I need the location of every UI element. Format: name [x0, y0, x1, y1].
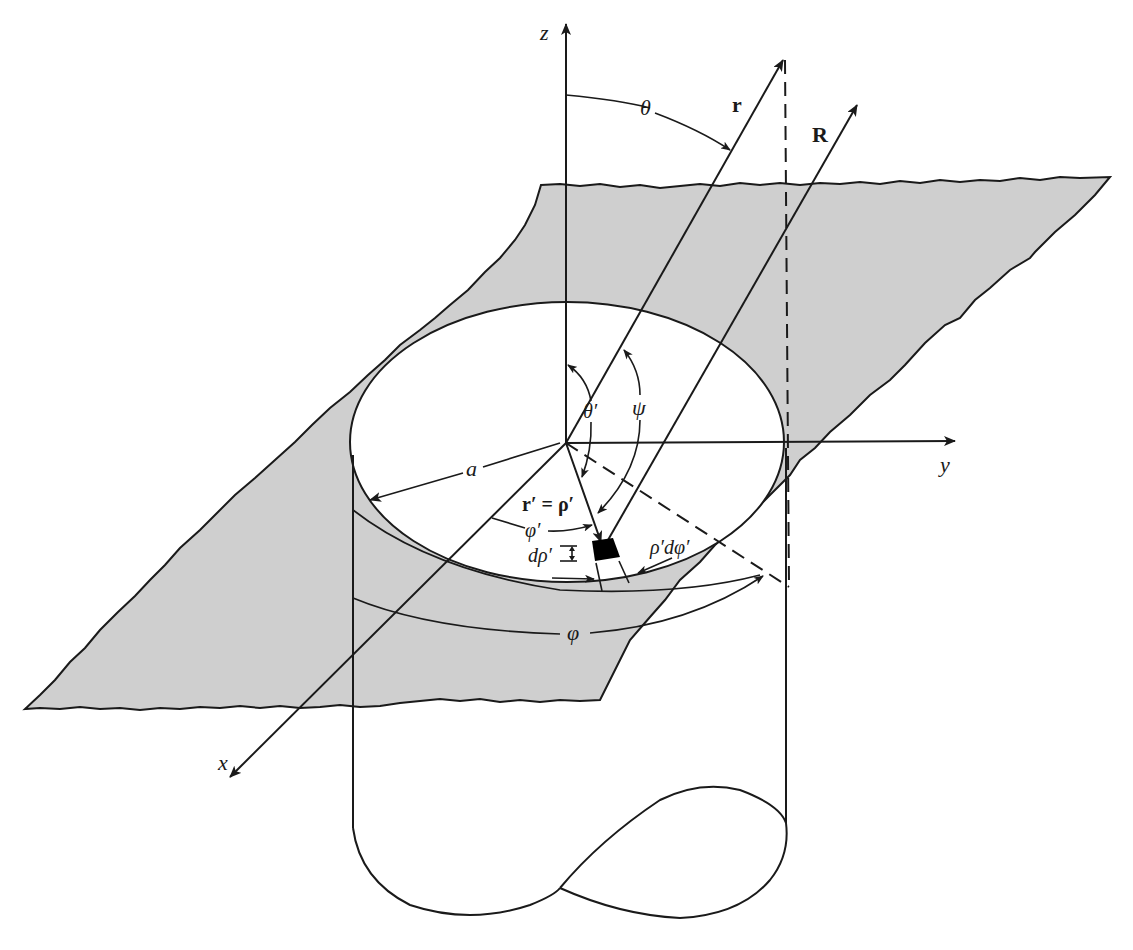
- x-axis-label: x: [217, 750, 228, 775]
- y-axis-label: y: [938, 452, 950, 477]
- z-axis-label: z: [539, 20, 549, 45]
- phi-prime-label: φ′: [525, 519, 541, 542]
- radius-label: a: [466, 456, 477, 481]
- psi-label: ψ: [632, 395, 646, 420]
- rho-d-phi-label: ρ′dφ′: [649, 536, 690, 559]
- theta-arc: [566, 95, 650, 108]
- theta-label: θ: [640, 95, 651, 120]
- d-rho-label: dρ′: [528, 544, 553, 567]
- R-vector-label: R: [812, 122, 829, 147]
- phi-label: φ: [567, 620, 579, 645]
- r-prime-label: r′ = ρ′: [522, 493, 574, 516]
- aperture-diagram: z y x r R r′ = ρ′ θ θ′ ψ a φ′ dρ′ ρ′dφ′: [0, 0, 1133, 950]
- theta-prime-label: θ′: [583, 400, 598, 422]
- r-vector-label: r: [732, 92, 742, 117]
